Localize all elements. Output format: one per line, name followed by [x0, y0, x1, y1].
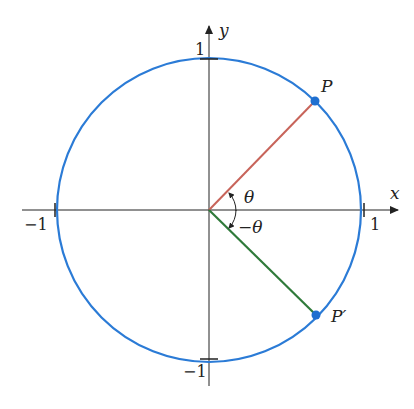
y-axis-label: y	[218, 20, 229, 40]
x-axis-label: x	[390, 183, 400, 203]
tick-label-y-neg: −1	[183, 362, 207, 381]
tick-label-y-pos: 1	[195, 40, 205, 59]
neg-theta-arc-icon	[229, 210, 236, 228]
unit-circle-diagram: x y 1 −1 1 −1 P P′ θ −θ	[0, 0, 414, 409]
point-P	[311, 97, 320, 106]
radius-to-P-prime	[209, 210, 316, 315]
angle-label-neg-theta: −θ	[238, 217, 262, 237]
tick-label-x-pos: 1	[370, 215, 380, 234]
angle-label-theta: θ	[244, 187, 254, 207]
point-label-P: P	[320, 76, 333, 96]
point-label-P-prime: P′	[330, 306, 346, 326]
radius-to-P	[209, 101, 315, 210]
tick-label-x-neg: −1	[24, 215, 48, 234]
theta-arc-icon	[229, 193, 236, 211]
point-P-prime	[312, 311, 321, 320]
